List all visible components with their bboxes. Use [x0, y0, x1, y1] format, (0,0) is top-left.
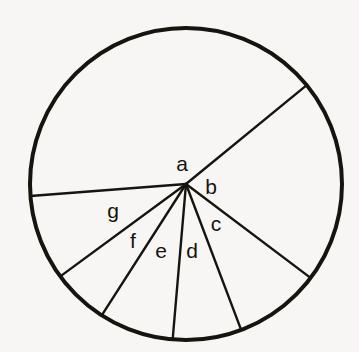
sector-label-f: f	[130, 230, 136, 251]
sector-label-a: a	[176, 153, 188, 174]
sector-label-e: e	[155, 240, 167, 261]
sector-label-c: c	[211, 213, 222, 234]
sector-label-b: b	[205, 176, 217, 197]
sector-label-g: g	[107, 200, 119, 221]
pie-chart-svg	[0, 0, 359, 352]
sector-label-d: d	[186, 240, 198, 261]
pie-diagram-figure: abcdefg	[0, 0, 359, 352]
